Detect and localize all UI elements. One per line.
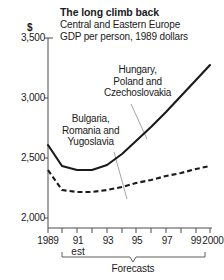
annotation-hpc-line-1: Hungary, (104, 64, 171, 76)
series-line-bulgaria-romania-yugoslavia (48, 166, 210, 192)
annotation-hungary-poland-czechoslovakia: Hungary, Poland and Czechoslovakia (104, 64, 171, 99)
x-tick-label-91: 91 (73, 235, 84, 246)
annotation-bry-line-3: Yugoslavia (62, 136, 119, 148)
x-axis-ticks (48, 228, 210, 233)
chart-figure: The long climb back Central and Eastern … (0, 0, 224, 280)
x-tick-label-95: 95 (132, 235, 143, 246)
x-tick-label-97: 97 (162, 235, 173, 246)
x-tick-label-2000: 2000 (202, 235, 223, 246)
x-tick-label-99: 99 (191, 235, 202, 246)
forecast-bracket-label: Forecasts (111, 263, 154, 274)
x-tick-label-1989: 1989 (37, 235, 58, 246)
x-tick-sublabel-est: est (71, 246, 84, 257)
y-axis-ticks (44, 38, 48, 218)
annotation-bulgaria-romania-yugoslavia: Bulgaria, Romania and Yugoslavia (62, 113, 119, 148)
annotation-hpc-line-2: Poland and (104, 76, 171, 88)
annotation-bry-line-1: Bulgaria, (62, 113, 119, 125)
annotation-hpc-line-3: Czechoslovakia (104, 87, 171, 99)
annotation-bry-line-2: Romania and (62, 125, 119, 137)
x-tick-label-93: 93 (103, 235, 114, 246)
